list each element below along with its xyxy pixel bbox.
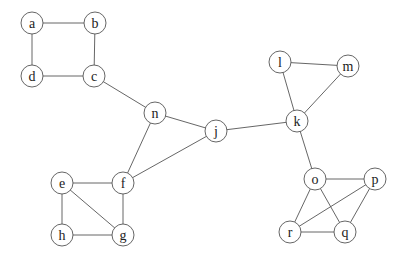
node-label: b <box>92 16 99 31</box>
node-j: j <box>205 120 227 142</box>
node-label: m <box>343 59 354 74</box>
node-b: b <box>84 12 106 34</box>
node-k: k <box>286 110 308 132</box>
node-n: n <box>144 102 166 124</box>
node-l: l <box>269 51 291 73</box>
node-label: f <box>121 176 126 191</box>
node-a: a <box>21 12 43 34</box>
node-label: q <box>342 225 349 240</box>
node-label: p <box>372 172 379 187</box>
edge-n-f <box>123 113 155 183</box>
node-p: p <box>364 168 386 190</box>
edge-e-g <box>62 183 123 235</box>
node-q: q <box>334 221 356 243</box>
node-label: e <box>59 176 65 191</box>
graph-diagram: abcdefghjklmnopqr <box>0 0 407 259</box>
node-f: f <box>112 172 134 194</box>
edge-f-j <box>123 131 216 183</box>
node-h: h <box>51 224 73 246</box>
node-label: n <box>152 106 159 121</box>
node-label: d <box>29 69 36 84</box>
node-label: k <box>294 114 301 129</box>
node-c: c <box>83 65 105 87</box>
node-m: m <box>337 55 359 77</box>
node-g: g <box>112 224 134 246</box>
node-label: l <box>278 55 282 70</box>
node-label: h <box>59 228 66 243</box>
node-r: r <box>279 221 301 243</box>
node-label: o <box>312 172 319 187</box>
edges-layer <box>32 23 375 235</box>
edge-j-k <box>216 121 297 131</box>
node-o: o <box>304 168 326 190</box>
node-label: r <box>288 225 293 240</box>
node-label: a <box>29 16 36 31</box>
node-label: g <box>120 228 127 243</box>
node-label: j <box>213 124 218 139</box>
node-label: c <box>91 69 97 84</box>
node-e: e <box>51 172 73 194</box>
node-d: d <box>21 65 43 87</box>
nodes-layer: abcdefghjklmnopqr <box>21 12 386 246</box>
